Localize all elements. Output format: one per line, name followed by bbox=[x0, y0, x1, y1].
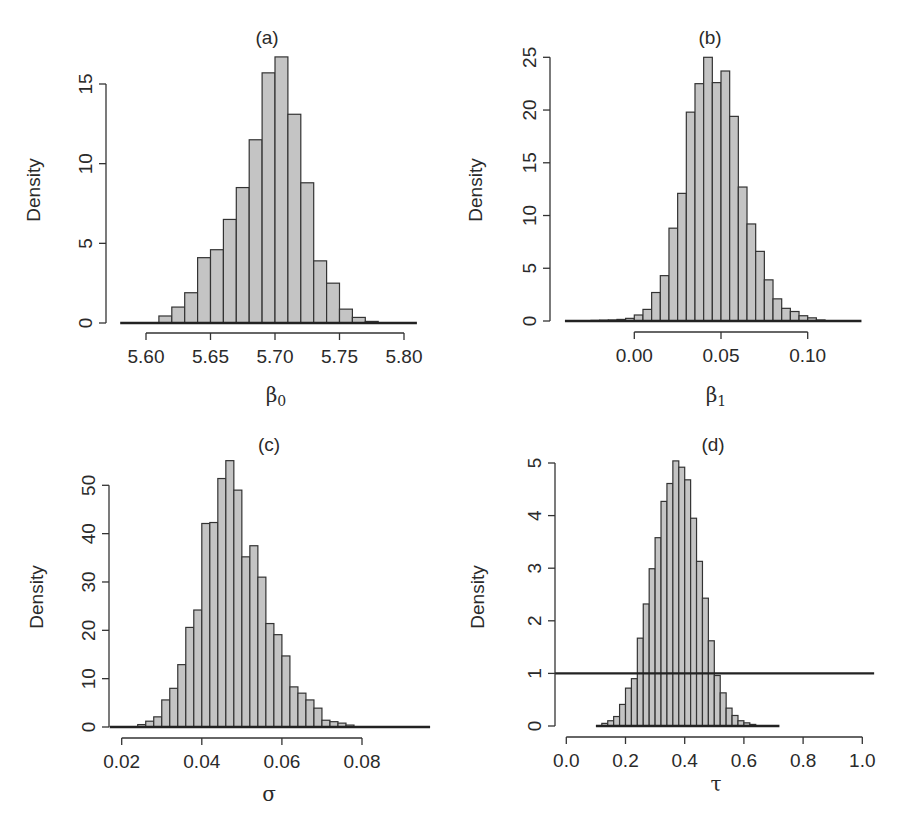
chart-canvas: 0510155.605.655.705.755.80(a)β0Density 0… bbox=[0, 0, 900, 824]
x-axis: 0.000.050.10 bbox=[616, 332, 826, 366]
y-tick-label: 4 bbox=[524, 510, 545, 521]
histogram-bar bbox=[266, 624, 274, 727]
figure-2x2-posterior-histograms: 0510155.605.655.705.755.80(a)β0Density 0… bbox=[0, 0, 900, 824]
y-tick-label: 3 bbox=[524, 563, 545, 574]
histogram-bar bbox=[708, 641, 714, 726]
histogram-bars bbox=[602, 461, 756, 726]
x-tick-label: 0.2 bbox=[612, 750, 638, 771]
x-axis: 0.00.20.40.60.81.0 bbox=[553, 737, 875, 771]
y-tick-label: 10 bbox=[519, 205, 540, 226]
x-axis-label: σ bbox=[262, 782, 276, 806]
histogram-bar bbox=[712, 83, 721, 321]
panel-c-sigma-histogram: 010203040500.020.040.060.08(c)σDensity bbox=[26, 434, 430, 806]
histogram-bar bbox=[301, 183, 314, 323]
y-axis-label: Density bbox=[26, 565, 47, 629]
histogram-bar bbox=[274, 635, 282, 727]
histogram-bar bbox=[614, 717, 620, 726]
y-axis: 051015 bbox=[75, 73, 106, 328]
histogram-bar bbox=[637, 638, 643, 726]
panel-d-tau-histogram: 0123450.00.20.40.60.81.0(d)τDensity bbox=[467, 434, 876, 796]
panel-title: (c) bbox=[258, 434, 280, 455]
y-axis-label: Density bbox=[467, 565, 488, 629]
histogram-bar bbox=[720, 693, 726, 726]
histogram-bar bbox=[691, 518, 697, 726]
histogram-bar bbox=[170, 688, 178, 727]
histogram-bar bbox=[290, 687, 298, 727]
histogram-bar bbox=[773, 299, 782, 321]
histogram-bar bbox=[764, 280, 773, 321]
panel-title: (a) bbox=[255, 27, 278, 48]
y-axis-label: Density bbox=[465, 158, 486, 222]
y-tick-label: 30 bbox=[78, 571, 99, 592]
histogram-bar bbox=[738, 187, 747, 321]
histogram-bar bbox=[669, 228, 678, 321]
histogram-bar bbox=[756, 251, 765, 321]
histogram-bar bbox=[660, 276, 669, 321]
histogram-bar bbox=[340, 309, 353, 323]
histogram-bar bbox=[667, 484, 673, 726]
histogram-bar bbox=[223, 219, 236, 323]
panel-b-beta1-histogram: 05101520250.000.050.10(b)β1Density bbox=[465, 27, 861, 409]
histogram-bar bbox=[721, 71, 730, 321]
x-tick-label: 0.08 bbox=[344, 751, 381, 772]
histogram-bar bbox=[198, 258, 211, 323]
histogram-bar bbox=[626, 688, 632, 726]
y-tick-label: 2 bbox=[524, 616, 545, 627]
histogram-bar bbox=[262, 73, 275, 323]
histogram-bar bbox=[730, 116, 739, 321]
y-tick-label: 10 bbox=[75, 153, 96, 174]
y-tick-label: 5 bbox=[519, 263, 540, 274]
y-axis: 012345 bbox=[524, 458, 555, 732]
histogram-bar bbox=[695, 84, 704, 321]
histogram-bar bbox=[185, 293, 198, 323]
y-tick-label: 0 bbox=[78, 722, 99, 733]
x-tick-label: 1.0 bbox=[849, 750, 875, 771]
y-tick-label: 5 bbox=[524, 458, 545, 469]
y-axis: 0510152025 bbox=[519, 47, 550, 327]
x-tick-label: 0.8 bbox=[790, 750, 816, 771]
histogram-bar bbox=[655, 538, 661, 726]
histogram-bar bbox=[652, 293, 661, 321]
y-tick-label: 10 bbox=[78, 668, 99, 689]
histogram-bar bbox=[679, 467, 685, 726]
panel-title: (b) bbox=[698, 27, 721, 48]
y-tick-label: 40 bbox=[78, 523, 99, 544]
histogram-bar bbox=[211, 250, 224, 323]
histogram-bar bbox=[704, 57, 713, 321]
histogram-bar bbox=[226, 461, 234, 727]
x-tick-label: 5.80 bbox=[386, 346, 423, 367]
x-tick-label: 5.75 bbox=[321, 346, 358, 367]
histogram-bar bbox=[714, 676, 720, 727]
x-tick-label: 5.70 bbox=[257, 346, 294, 367]
histogram-bar bbox=[685, 480, 691, 726]
x-axis: 5.605.655.705.755.80 bbox=[128, 333, 423, 367]
histogram-bar bbox=[172, 307, 185, 323]
histogram-bar bbox=[218, 479, 226, 727]
histogram-bar bbox=[306, 700, 314, 727]
histogram-bar bbox=[620, 704, 626, 726]
y-tick-label: 15 bbox=[75, 73, 96, 94]
histogram-bar bbox=[249, 140, 262, 323]
histogram-bar bbox=[314, 261, 327, 323]
histogram-bar bbox=[186, 627, 194, 727]
x-tick-label: 5.60 bbox=[128, 346, 165, 367]
histogram-bar bbox=[643, 604, 649, 726]
histogram-bar bbox=[162, 700, 170, 727]
histogram-bar bbox=[288, 114, 301, 323]
histogram-bar bbox=[747, 224, 756, 321]
histogram-bar bbox=[194, 610, 202, 727]
histogram-bar bbox=[678, 193, 687, 321]
histogram-bar bbox=[210, 523, 218, 727]
y-tick-label: 1 bbox=[524, 668, 545, 679]
y-tick-label: 25 bbox=[519, 47, 540, 68]
x-tick-label: 0.00 bbox=[616, 345, 653, 366]
x-tick-label: 0.05 bbox=[703, 345, 740, 366]
x-tick-label: 0.4 bbox=[671, 750, 698, 771]
x-tick-label: 0.0 bbox=[553, 750, 579, 771]
x-tick-label: 0.04 bbox=[183, 751, 220, 772]
histogram-bar bbox=[790, 312, 799, 321]
histogram-bar bbox=[673, 461, 679, 726]
y-tick-label: 20 bbox=[78, 620, 99, 641]
histogram-bar bbox=[298, 693, 306, 727]
x-tick-label: 5.65 bbox=[192, 346, 229, 367]
